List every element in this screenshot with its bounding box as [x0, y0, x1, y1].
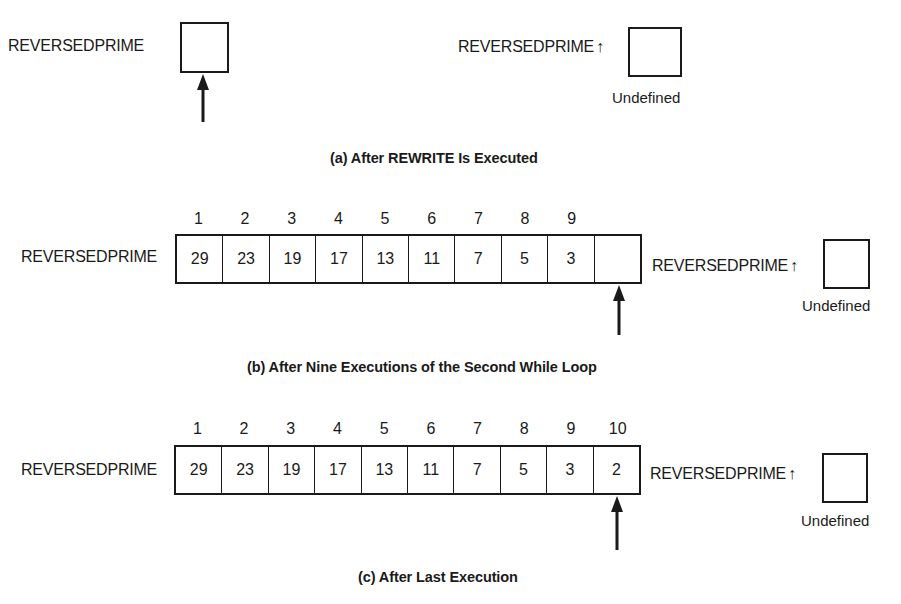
- index-label: 9: [548, 210, 595, 228]
- buffer-variable-label: REVERSEDPRIME↑: [458, 38, 604, 56]
- file-cell: 5: [502, 236, 548, 282]
- index-label: 1: [174, 420, 221, 438]
- index-label: 5: [362, 210, 409, 228]
- index-row: 1 2 3 4 5 6 7 8 9 10: [174, 420, 641, 438]
- index-label: 4: [314, 420, 361, 438]
- file-cell: 23: [223, 236, 269, 282]
- file-cell: 3: [548, 236, 594, 282]
- file-cell: 5: [501, 447, 547, 493]
- file-label: REVERSEDPRIME: [21, 248, 157, 266]
- index-label: 9: [548, 420, 595, 438]
- index-label: 8: [502, 210, 549, 228]
- buffer-variable-box: [628, 27, 682, 77]
- file-cell-empty: [595, 236, 640, 282]
- index-label: 6: [408, 420, 455, 438]
- caption-c: (c) After Last Execution: [358, 569, 518, 585]
- buffer-undefined-note: Undefined: [801, 512, 869, 529]
- caption-b: (b) After Nine Executions of the Second …: [247, 359, 597, 375]
- index-label: 3: [268, 210, 315, 228]
- file-cell: 23: [222, 447, 268, 493]
- up-arrow-icon: ↑: [788, 465, 796, 482]
- index-label: 5: [361, 420, 408, 438]
- file-cell: 2: [594, 447, 639, 493]
- file-cell: 13: [363, 236, 409, 282]
- file-window-arrow-icon: [607, 494, 627, 552]
- file-cell: 7: [455, 236, 501, 282]
- index-label: 4: [315, 210, 362, 228]
- up-arrow-icon: ↑: [790, 257, 798, 274]
- file-cell: 29: [176, 447, 222, 493]
- index-label: 1: [175, 210, 222, 228]
- file-array: 29 23 19 17 13 11 7 5 3: [175, 234, 642, 284]
- buffer-variable-label: REVERSEDPRIME↑: [652, 257, 798, 275]
- file-array: 29 23 19 17 13 11 7 5 3 2: [174, 445, 641, 495]
- file-cell: 11: [408, 447, 454, 493]
- file-cell: 19: [269, 447, 315, 493]
- file-cell: 17: [316, 236, 362, 282]
- up-arrow-icon: ↑: [596, 38, 604, 55]
- index-label: 7: [454, 420, 501, 438]
- file-cell: 29: [177, 236, 223, 282]
- index-label: 6: [408, 210, 455, 228]
- index-label: 2: [222, 210, 269, 228]
- file-cell: 7: [454, 447, 500, 493]
- file-label: REVERSEDPRIME: [8, 37, 144, 55]
- caption-a: (a) After REWRITE Is Executed: [330, 150, 538, 166]
- file-cell: 3: [547, 447, 593, 493]
- file-window-arrow-icon: [193, 72, 213, 124]
- file-cell: 11: [409, 236, 455, 282]
- file-label: REVERSEDPRIME: [21, 461, 157, 479]
- file-cell: 13: [362, 447, 408, 493]
- buffer-variable-box: [823, 239, 870, 289]
- index-label: 2: [221, 420, 268, 438]
- buffer-variable-box: [822, 453, 868, 503]
- buffer-variable-label: REVERSEDPRIME↑: [650, 465, 796, 483]
- file-window-arrow-icon: [609, 283, 629, 337]
- index-label: 3: [267, 420, 314, 438]
- file-cell-empty: [180, 22, 229, 73]
- buffer-undefined-note: Undefined: [612, 89, 680, 106]
- index-row: 1 2 3 4 5 6 7 8 9: [175, 210, 595, 228]
- file-cell: 17: [315, 447, 361, 493]
- index-label: 7: [455, 210, 502, 228]
- file-cell: 19: [270, 236, 316, 282]
- index-label: 8: [501, 420, 548, 438]
- index-label: 10: [594, 420, 641, 438]
- buffer-undefined-note: Undefined: [802, 297, 870, 314]
